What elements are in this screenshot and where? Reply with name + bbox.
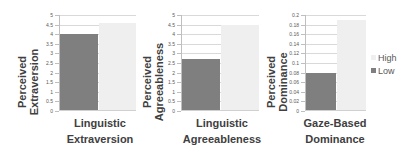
y-tick-label: 0.06 bbox=[279, 79, 299, 85]
y-tick-label: 0.18 bbox=[279, 22, 299, 28]
legend-label-high: High bbox=[378, 53, 397, 63]
legend: High Low bbox=[371, 51, 397, 77]
bar-low bbox=[306, 73, 336, 111]
x-axis-title: Gaze-Based Dominance bbox=[290, 115, 380, 147]
y-tick-label: 0.02 bbox=[279, 98, 299, 104]
x-axis-line bbox=[305, 110, 366, 111]
legend-item-high: High bbox=[371, 51, 397, 64]
y-tick-label: 0.16 bbox=[279, 31, 299, 37]
y-tick bbox=[301, 111, 305, 112]
x-title-line2: Dominance bbox=[290, 131, 380, 147]
y-tick-label: 0.1 bbox=[279, 60, 299, 66]
gridline bbox=[305, 15, 366, 16]
legend-swatch-low bbox=[371, 68, 376, 73]
legend-item-low: Low bbox=[371, 64, 397, 77]
legend-label-low: Low bbox=[378, 66, 395, 76]
y-tick-label: 0 bbox=[279, 108, 299, 114]
y-tick-label: 0.04 bbox=[279, 89, 299, 95]
y-tick-label: 0.14 bbox=[279, 41, 299, 47]
chart-dominance: Perceived Dominance 00.020.040.060.080.1… bbox=[0, 0, 413, 153]
y-tick-label: 0.2 bbox=[279, 12, 299, 18]
y-tick-label: 0.08 bbox=[279, 70, 299, 76]
plot-area: 00.020.040.060.080.10.120.140.160.180.2 bbox=[305, 15, 366, 111]
y-tick-label: 0.12 bbox=[279, 50, 299, 56]
legend-swatch-high bbox=[371, 55, 376, 60]
y-axis-line bbox=[305, 15, 306, 111]
y-title-line1: Perceived bbox=[265, 42, 277, 122]
x-title-line1: Gaze-Based bbox=[290, 115, 380, 131]
bar-high bbox=[337, 20, 367, 111]
